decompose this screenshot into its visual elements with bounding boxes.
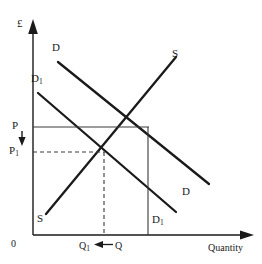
x-axis	[33, 230, 254, 239]
demand-curve-original	[58, 62, 209, 184]
quantity-new-label: Q1	[79, 241, 90, 251]
supply-demand-diagram: £ D S D1 D S D1 P P1 0 Quantity Q1Q	[0, 0, 262, 264]
demand-curve-shifted	[38, 93, 176, 212]
y-axis-label: £	[17, 18, 23, 29]
x-axis-label: Quantity	[208, 243, 243, 253]
price-new-label: P1	[9, 145, 19, 156]
origin-label: 0	[11, 239, 16, 249]
x-axis-arrowhead	[240, 230, 254, 239]
demand-shifted-top-label: D1	[31, 73, 43, 84]
demand-original-top-label: D	[52, 42, 60, 53]
demand-shifted-top-label-text: D	[31, 72, 39, 84]
price-decrease-arrow-icon	[18, 131, 25, 146]
quantity-decrease-arrow-icon	[92, 240, 114, 251]
y-axis-arrowhead	[28, 19, 38, 34]
diagram-canvas	[0, 0, 262, 264]
demand-shifted-bottom-label-text: D	[152, 213, 160, 225]
quantity-new-label-sub: 1	[86, 244, 90, 253]
demand-original-bottom-label: D	[182, 186, 190, 197]
quantity-change-annotation: Q1Q	[79, 240, 122, 251]
demand-shifted-bottom-label-sub: 1	[160, 218, 164, 227]
supply-bottom-label: S	[37, 213, 43, 224]
quantity-original-label: Q	[115, 241, 122, 251]
supply-top-label: S	[172, 48, 178, 59]
demand-shifted-bottom-label: D1	[152, 214, 164, 225]
supply-curve	[46, 57, 176, 214]
demand-shifted-top-label-sub: 1	[39, 77, 43, 86]
price-original-label: P	[12, 120, 18, 131]
price-new-label-sub: 1	[15, 149, 19, 158]
